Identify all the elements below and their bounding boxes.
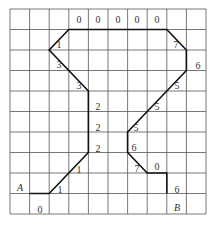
- count-label: 6: [196, 60, 201, 71]
- count-label: 0: [38, 204, 43, 215]
- count-label: 6: [175, 184, 180, 195]
- count-label: 0: [155, 14, 160, 25]
- count-label: 2: [96, 143, 101, 154]
- count-label: 1: [58, 184, 63, 195]
- count-label: 5: [134, 122, 139, 133]
- count-label: 5: [155, 101, 160, 112]
- count-label: 2: [96, 101, 101, 112]
- count-label: 0: [135, 14, 140, 25]
- count-label: 6: [132, 142, 137, 153]
- count-label: 0: [96, 14, 101, 25]
- count-label: 3: [57, 59, 62, 70]
- point-label: A: [16, 182, 24, 193]
- count-label: 7: [135, 163, 140, 174]
- count-label: 2: [96, 122, 101, 133]
- point-label: B: [174, 202, 180, 213]
- count-label: 3: [77, 80, 82, 91]
- count-label: 0: [116, 14, 121, 25]
- count-label: 0: [77, 14, 82, 25]
- count-label: 0: [155, 161, 160, 172]
- count-label: 1: [57, 39, 62, 50]
- grid-path-diagram: AB01122233100000765556706: [0, 0, 210, 227]
- count-label: 5: [175, 80, 180, 91]
- count-label: 7: [174, 39, 179, 50]
- count-label: 1: [77, 164, 82, 175]
